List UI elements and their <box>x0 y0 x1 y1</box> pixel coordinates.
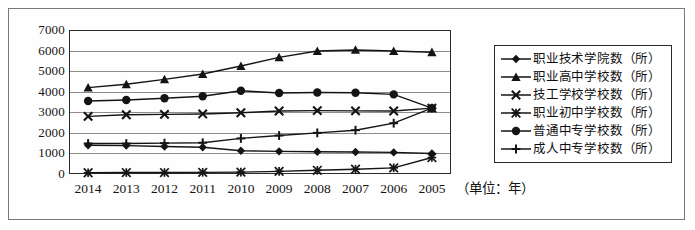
y-axis-tick-label: 3000 <box>38 105 65 118</box>
data-point-marker <box>275 147 283 155</box>
data-point-marker <box>199 92 207 100</box>
legend-item-label: 职业技术学院数（所） <box>533 50 661 68</box>
data-point-marker <box>428 153 437 162</box>
data-point-marker <box>122 168 131 177</box>
data-point-marker <box>389 164 398 173</box>
y-axis-tick-label: 0 <box>58 167 65 180</box>
data-point-marker <box>390 90 398 98</box>
legend-plus-icon <box>499 140 533 158</box>
x-axis-tick-label: 2009 <box>266 181 293 196</box>
legend-item[interactable]: 职业技术学院数（所） <box>499 50 666 68</box>
data-point-marker <box>313 128 322 137</box>
data-point-marker <box>160 94 168 102</box>
data-point-marker <box>84 97 92 105</box>
data-point-marker <box>160 168 169 177</box>
data-point-marker <box>275 167 284 176</box>
legend-item[interactable]: 普通中专学校数（所） <box>499 122 666 140</box>
legend-item[interactable]: 成人中专学校数（所） <box>499 140 666 158</box>
legend-item-label: 职业高中学校数（所） <box>533 68 661 86</box>
data-point-marker <box>84 139 93 148</box>
data-point-marker <box>512 109 521 118</box>
data-point-marker <box>237 168 246 177</box>
x-axis-tick-label: 2011 <box>189 181 216 196</box>
data-point-marker <box>390 148 398 156</box>
legend-circle-icon <box>499 122 533 140</box>
legend-asterisk-icon <box>499 104 533 122</box>
data-point-marker <box>198 138 207 147</box>
legend-cross-icon <box>499 86 533 104</box>
data-point-marker <box>351 148 359 156</box>
data-point-marker <box>237 147 245 155</box>
x-axis-tick-label: 2014 <box>75 181 102 196</box>
legend-item-label: 职业初中学校数（所） <box>533 104 661 122</box>
legend-item[interactable]: 技工学校学校数（所） <box>499 86 666 104</box>
data-series-layer <box>69 30 451 174</box>
data-point-marker <box>351 126 360 135</box>
chart-legend: 职业技术学院数（所）职业高中学校数（所）技工学校学校数（所）职业初中学校数（所）… <box>494 45 672 163</box>
y-axis-tick-label: 6000 <box>38 44 65 57</box>
data-point-marker <box>313 148 321 156</box>
data-point-marker <box>237 134 246 143</box>
series-cross <box>84 104 436 121</box>
legend-item[interactable]: 职业初中学校数（所） <box>499 104 666 122</box>
x-axis-tick-label: 2010 <box>227 181 254 196</box>
data-point-marker <box>389 119 398 128</box>
data-point-marker <box>313 88 321 96</box>
series-asterisk <box>84 153 436 177</box>
y-axis-tick-label: 1000 <box>38 146 65 159</box>
series-circle <box>84 86 436 112</box>
x-axis-tick-label: 2008 <box>304 181 331 196</box>
data-point-marker <box>351 89 359 97</box>
series-triangle <box>84 45 437 91</box>
x-axis-tick-label: 2012 <box>151 181 178 196</box>
legend-triangle-icon <box>499 68 533 86</box>
x-axis-tick-label: 2005 <box>418 181 445 196</box>
y-axis-tick-label: 5000 <box>38 64 65 77</box>
data-point-marker <box>275 89 283 97</box>
y-axis-tick-label: 7000 <box>38 23 65 36</box>
x-axis-tick-label: 2006 <box>380 181 407 196</box>
chart-area: 70006000500040003000200010000 2014201320… <box>9 9 479 221</box>
data-point-marker <box>512 145 521 154</box>
x-axis-unit-label: （单位：年） <box>456 181 534 196</box>
data-point-marker <box>351 165 360 174</box>
legend-item[interactable]: 职业高中学校数（所） <box>499 68 666 86</box>
legend-item-label: 技工学校学校数（所） <box>533 86 661 104</box>
legend-diamond-icon <box>499 50 533 68</box>
x-axis-tick-label: 2007 <box>342 181 369 196</box>
data-point-marker <box>313 166 322 175</box>
data-point-marker <box>275 131 284 140</box>
y-axis-tick-labels: 70006000500040003000200010000 <box>9 30 65 174</box>
data-point-marker <box>122 96 130 104</box>
chart-figure-frame: 70006000500040003000200010000 2014201320… <box>8 8 685 220</box>
y-axis-tick-label: 2000 <box>38 126 65 139</box>
legend-item-label: 普通中专学校数（所） <box>533 122 661 140</box>
x-axis-tick-label: 2013 <box>113 181 140 196</box>
data-point-marker <box>198 168 207 177</box>
y-axis-tick-label: 4000 <box>38 85 65 98</box>
data-point-marker <box>84 168 93 177</box>
legend-item-label: 成人中专学校数（所） <box>533 140 661 158</box>
x-axis-tick-labels: 2014201320122011201020092008200720062005 <box>69 181 451 201</box>
data-point-marker <box>237 86 245 94</box>
data-point-marker <box>512 127 520 135</box>
data-point-marker <box>512 55 520 63</box>
